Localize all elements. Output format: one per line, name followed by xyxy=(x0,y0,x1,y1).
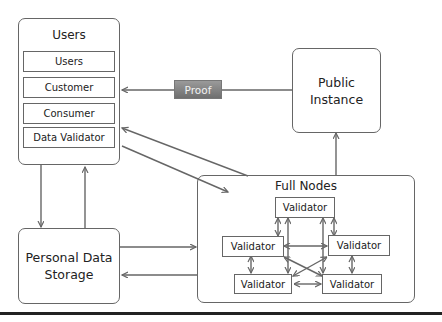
users-item-consumer: Consumer xyxy=(23,103,115,124)
users-box: Users Users Customer Consumer Data Valid… xyxy=(18,18,120,165)
users-item-data-validator: Data Validator xyxy=(23,127,115,148)
validator-right: Validator xyxy=(328,235,390,256)
public-instance-label: Public Instance xyxy=(293,74,380,108)
users-item-customer: Customer xyxy=(23,77,115,98)
bottom-divider xyxy=(0,312,442,315)
validator-top: Validator xyxy=(275,197,335,218)
public-instance-box: Public Instance xyxy=(292,48,381,133)
validator-bottom-left: Validator xyxy=(234,274,292,294)
users-box-title: Users xyxy=(19,28,119,42)
proof-edge-label: Proof xyxy=(174,80,222,99)
validator-left: Validator xyxy=(222,236,284,257)
personal-data-storage-box: Personal Data Storage xyxy=(18,228,120,304)
full-nodes-title: Full Nodes xyxy=(198,179,414,193)
users-item-users: Users xyxy=(23,51,115,72)
personal-data-storage-label: Personal Data Storage xyxy=(19,249,119,283)
validator-bottom-right: Validator xyxy=(322,274,382,294)
